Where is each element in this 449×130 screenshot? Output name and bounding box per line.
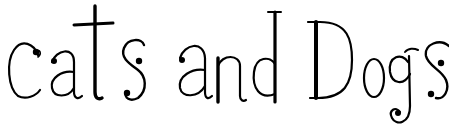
word-and [179, 12, 281, 102]
cats-and-dogs-logo: cats and Dogs [0, 0, 449, 130]
word-dogs [308, 22, 449, 122]
word-cats [9, 6, 145, 100]
